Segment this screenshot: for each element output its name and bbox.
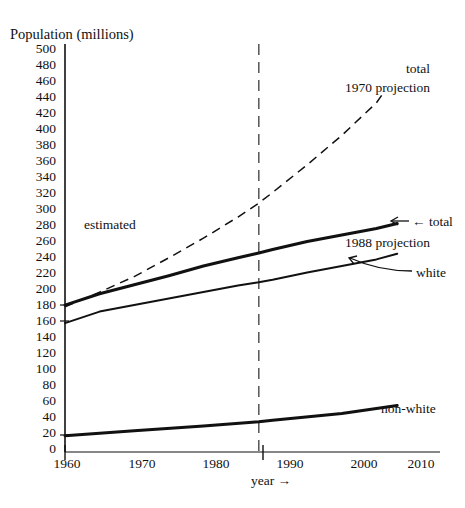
chart-axes [65, 44, 440, 460]
x-axis-title: year → [251, 474, 291, 488]
y-tick-label-380: 380 [22, 138, 56, 152]
y-tick-label-420: 420 [22, 106, 56, 120]
x-tick-label-1970: 1970 [117, 457, 167, 471]
x-tick-label-1980: 1980 [191, 457, 241, 471]
y-tick-label-100: 100 [22, 362, 56, 376]
population-projection-chart: Population (millions) 500 480 460 440 42… [0, 0, 465, 508]
y-tick-label-40: 40 [22, 410, 56, 424]
y-tick-label-340: 340 [22, 170, 56, 184]
y-tick-label-140: 140 [22, 330, 56, 344]
x-tick-label-2000: 2000 [339, 457, 389, 471]
annotation-estimated: estimated [84, 218, 136, 232]
y-tick-label-0: 0 [22, 442, 56, 456]
x-tick-label-1960: 1960 [42, 457, 92, 471]
x-tick-label-2010: 2010 [396, 457, 446, 471]
y-tick-label-440: 440 [22, 90, 56, 104]
series-line-non-white [65, 406, 397, 436]
y-tick-label-60: 60 [22, 394, 56, 408]
y-tick-label-160: 160 [22, 314, 56, 328]
annotation-non-white: non-white [381, 402, 436, 416]
y-tick-label-500: 500 [22, 42, 56, 56]
y-tick-label-460: 460 [22, 74, 56, 88]
y-tick-label-260: 260 [22, 234, 56, 248]
annotation-total-1970-projection-line2: 1970 projection [345, 81, 430, 95]
y-tick-label-180: 180 [22, 298, 56, 312]
y-axis-title: Population (millions) [10, 27, 134, 42]
y-tick-label-300: 300 [22, 202, 56, 216]
y-tick-label-220: 220 [22, 266, 56, 280]
annotation-total-1988-projection-label: ← total [412, 215, 453, 229]
y-tick-label-480: 480 [22, 58, 56, 72]
annotation-1988-projection-line2: 1988 projection [345, 236, 430, 250]
y-tick-label-320: 320 [22, 186, 56, 200]
y-tick-label-280: 280 [22, 218, 56, 232]
y-tick-label-80: 80 [22, 378, 56, 392]
annotation-white: white [416, 266, 446, 280]
series-line-total-1970-projection [65, 93, 383, 307]
annotation-total-1970-projection-line1: total [406, 62, 430, 76]
y-tick-label-20: 20 [22, 426, 56, 440]
x-tick-label-1990: 1990 [265, 457, 315, 471]
y-tick-label-400: 400 [22, 122, 56, 136]
y-tick-label-240: 240 [22, 250, 56, 264]
y-tick-label-360: 360 [22, 154, 56, 168]
y-tick-label-120: 120 [22, 346, 56, 360]
y-tick-label-200: 200 [22, 282, 56, 296]
chart-plot-area [0, 0, 465, 508]
